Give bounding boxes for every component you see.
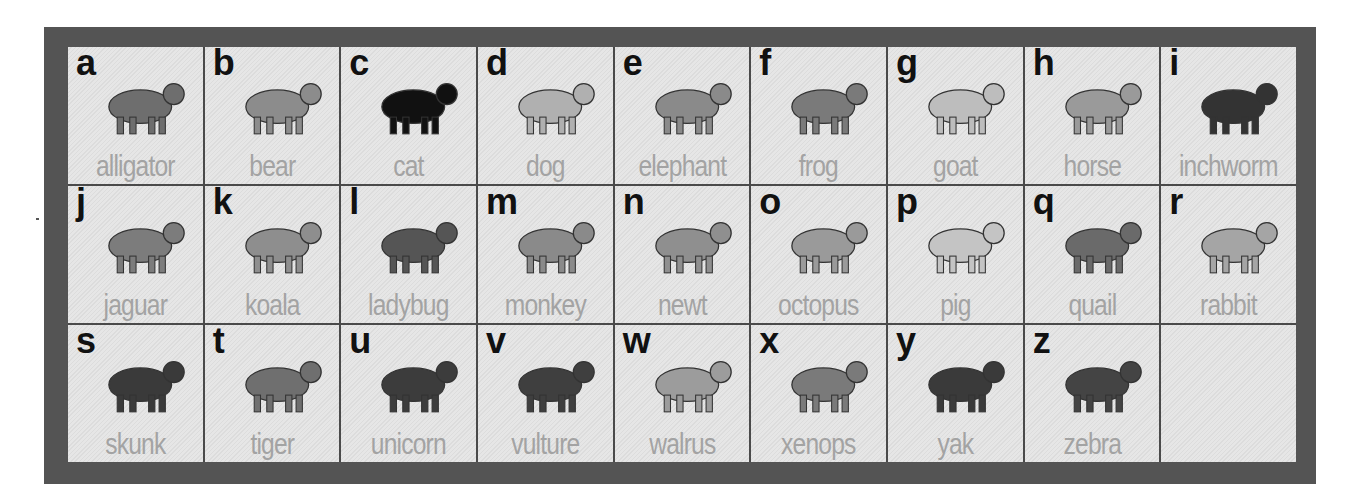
walrus-icon: [637, 335, 742, 428]
rabbit-icon: [1183, 196, 1288, 289]
bear-icon: [227, 57, 332, 150]
cell-animal-name: bear: [217, 150, 327, 182]
cell-animal-name: cat: [353, 150, 463, 182]
horse-icon-shape: [1047, 57, 1152, 150]
monkey-icon-shape: [500, 196, 605, 289]
cell-animal-name: pig: [900, 289, 1010, 321]
alphabet-cell-v: v vulture: [478, 325, 613, 462]
newt-icon-shape: [637, 196, 742, 289]
bear-icon-shape: [227, 57, 332, 150]
ladybug-icon: [363, 196, 468, 289]
tiger-icon: [227, 335, 332, 428]
alphabet-cell-q: q quail: [1025, 186, 1160, 323]
cell-animal-name: ladybug: [353, 289, 463, 321]
cell-letter: r: [1169, 186, 1183, 222]
cell-letter: i: [1169, 47, 1179, 83]
koala-icon: [227, 196, 332, 289]
alphabet-cell-c: c cat: [341, 47, 476, 184]
quail-icon: [1047, 196, 1152, 289]
koala-icon-shape: [227, 196, 332, 289]
alligator-icon: [90, 57, 195, 150]
alphabet-cell-t: t tiger: [205, 325, 340, 462]
pig-icon: [910, 196, 1015, 289]
alligator-icon-shape: [90, 57, 195, 150]
cell-animal-name: goat: [900, 150, 1010, 182]
alphabet-cell-g: g goat: [888, 47, 1023, 184]
zebra-icon: [1047, 335, 1152, 428]
cell-letter: j: [76, 186, 86, 222]
cell-animal-name: newt: [627, 289, 737, 321]
horse-icon: [1047, 57, 1152, 150]
yak-icon-shape: [910, 335, 1015, 428]
cell-letter: l: [349, 186, 359, 222]
quail-icon-shape: [1047, 196, 1152, 289]
yak-icon: [910, 335, 1015, 428]
dog-icon: [500, 57, 605, 150]
alphabet-cell-l: l ladybug: [341, 186, 476, 323]
jaguar-icon-shape: [90, 196, 195, 289]
ladybug-icon-shape: [363, 196, 468, 289]
alphabet-cell-u: u unicorn: [341, 325, 476, 462]
cell-animal-name: tiger: [217, 428, 327, 460]
vulture-icon-shape: [500, 335, 605, 428]
elephant-icon-shape: [637, 57, 742, 150]
jaguar-icon: [90, 196, 195, 289]
elephant-icon: [637, 57, 742, 150]
cell-animal-name: skunk: [80, 428, 190, 460]
walrus-icon-shape: [637, 335, 742, 428]
monkey-icon: [500, 196, 605, 289]
alphabet-chart-frame: a alligator b bear c cat d dog e elephan…: [44, 27, 1316, 484]
cell-animal-name: vulture: [490, 428, 600, 460]
alphabet-cell-x: x xenops: [751, 325, 886, 462]
cell-animal-name: rabbit: [1173, 289, 1283, 321]
inchworm-icon-shape: [1183, 57, 1288, 150]
alphabet-cell-z: z zebra: [1025, 325, 1160, 462]
cell-animal-name: frog: [763, 150, 873, 182]
cat-icon: [363, 57, 468, 150]
xenops-icon: [773, 335, 878, 428]
rabbit-icon-shape: [1183, 196, 1288, 289]
cell-animal-name: yak: [900, 428, 1010, 460]
alphabet-cell-k: k koala: [205, 186, 340, 323]
cell-animal-name: quail: [1037, 289, 1147, 321]
xenops-icon-shape: [773, 335, 878, 428]
alphabet-cell-m: m monkey: [478, 186, 613, 323]
frog-icon: [773, 57, 878, 150]
cell-animal-name: inchworm: [1173, 150, 1283, 182]
alphabet-cell-j: j jaguar: [68, 186, 203, 323]
alphabet-cell-empty: [1161, 325, 1296, 462]
alphabet-cell-b: b bear: [205, 47, 340, 184]
cell-animal-name: dog: [490, 150, 600, 182]
octopus-icon-shape: [773, 196, 878, 289]
alphabet-cell-s: s skunk: [68, 325, 203, 462]
cell-animal-name: xenops: [763, 428, 873, 460]
cell-animal-name: jaguar: [80, 289, 190, 321]
unicorn-icon: [363, 335, 468, 428]
cell-animal-name: alligator: [80, 150, 190, 182]
octopus-icon: [773, 196, 878, 289]
cell-animal-name: elephant: [627, 150, 737, 182]
goat-icon-shape: [910, 57, 1015, 150]
cat-icon-shape: [363, 57, 468, 150]
alphabet-cell-n: n newt: [615, 186, 750, 323]
cell-animal-name: horse: [1037, 150, 1147, 182]
goat-icon: [910, 57, 1015, 150]
inchworm-icon: [1183, 57, 1288, 150]
cell-animal-name: monkey: [490, 289, 600, 321]
cell-animal-name: octopus: [763, 289, 873, 321]
frog-icon-shape: [773, 57, 878, 150]
unicorn-icon-shape: [363, 335, 468, 428]
alphabet-cell-o: o octopus: [751, 186, 886, 323]
cell-animal-name: zebra: [1037, 428, 1147, 460]
alphabet-cell-p: p pig: [888, 186, 1023, 323]
newt-icon: [637, 196, 742, 289]
cell-animal-name: walrus: [627, 428, 737, 460]
alphabet-cell-y: y yak: [888, 325, 1023, 462]
skunk-icon: [90, 335, 195, 428]
empty-picture: [1183, 335, 1288, 428]
alphabet-cell-d: d dog: [478, 47, 613, 184]
dog-icon-shape: [500, 57, 605, 150]
alphabet-cell-f: f frog: [751, 47, 886, 184]
pig-icon-shape: [910, 196, 1015, 289]
vulture-icon: [500, 335, 605, 428]
